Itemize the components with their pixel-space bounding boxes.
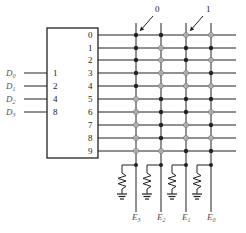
diode-dot-filled [184, 110, 188, 114]
diode-dot-filled [209, 149, 213, 153]
input-label-d1: D1 [5, 81, 16, 92]
output-label-2: 2 [88, 55, 93, 65]
diode-dot-filled [209, 46, 213, 50]
input-weight-8: 8 [53, 107, 58, 117]
output-label-8: 8 [88, 133, 93, 143]
output-label-0: 0 [88, 30, 93, 40]
resistor-icon [168, 173, 176, 194]
output-label-7: 7 [88, 120, 93, 130]
diode-dot-filled [134, 71, 138, 75]
resistor-lead [172, 165, 186, 173]
diode-dot-filled [184, 58, 188, 62]
diode-matrix-diagram: D01D12D24D380123456789E3E2E1E001 [0, 0, 246, 233]
output-label-3: 3 [88, 68, 93, 78]
output-label-e1: E1 [181, 212, 191, 223]
diode-dot-filled [159, 97, 163, 101]
diode-dot-filled [159, 33, 163, 37]
output-label-e3: E3 [131, 212, 141, 223]
resistor-lead [197, 165, 211, 173]
output-label-5: 5 [88, 94, 93, 104]
diode-dot-filled [134, 84, 138, 88]
output-label-1: 1 [88, 43, 93, 53]
resistor-icon [118, 173, 126, 194]
resistor-icon [193, 173, 201, 194]
output-label-e2: E2 [156, 212, 166, 223]
resistor-lead [147, 165, 161, 173]
output-label-9: 9 [88, 146, 93, 156]
diode-dot-filled [134, 33, 138, 37]
input-weight-2: 2 [53, 81, 58, 91]
diode-dot-filled [184, 46, 188, 50]
resistor-icon [143, 173, 151, 194]
diode-dot-filled [134, 58, 138, 62]
diode-dot-filled [159, 110, 163, 114]
diode-dot-filled [209, 71, 213, 75]
legend-hollow-label: 1 [206, 4, 211, 14]
output-label-4: 4 [88, 81, 93, 91]
diagram-svg: D01D12D24D380123456789E3E2E1E001 [0, 0, 246, 233]
resistor-lead [122, 165, 136, 173]
input-label-d3: D3 [5, 107, 16, 118]
output-label-6: 6 [88, 107, 93, 117]
diode-dot-filled [209, 123, 213, 127]
output-label-e0: E0 [206, 212, 216, 223]
diode-dot-filled [184, 97, 188, 101]
input-weight-1: 1 [53, 68, 58, 78]
diode-dot-filled [159, 136, 163, 140]
input-label-d2: D2 [5, 94, 16, 105]
diode-dot-filled [184, 149, 188, 153]
diode-dot-filled [134, 46, 138, 50]
legend-filled-label: 0 [155, 4, 160, 14]
diode-dot-filled [159, 123, 163, 127]
input-weight-4: 4 [53, 94, 58, 104]
diode-dot-filled [209, 97, 213, 101]
input-label-d0: D0 [5, 68, 16, 79]
